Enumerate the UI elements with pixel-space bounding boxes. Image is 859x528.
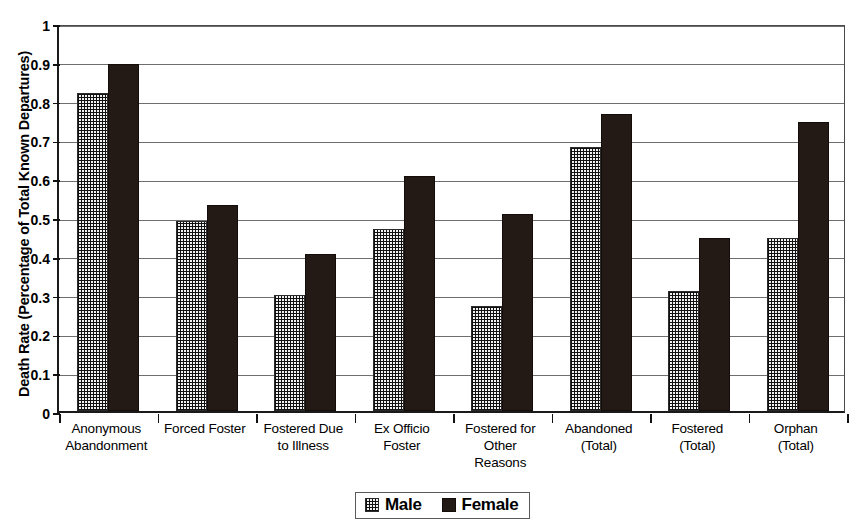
bar-female	[798, 122, 829, 411]
x-axis-label-line: Other	[484, 438, 517, 453]
y-axis-tick-label: 0.6	[31, 173, 50, 189]
legend-item-male: Male	[365, 495, 422, 515]
x-axis-label-line: (Total)	[679, 438, 715, 453]
male-swatch-icon	[365, 498, 379, 512]
x-axis-label-line: Fostered	[671, 421, 723, 436]
x-axis-label-line: Abandoned	[565, 421, 632, 436]
gridline	[59, 142, 844, 143]
x-axis-label-line: Foster	[383, 438, 420, 453]
x-axis-label-line: Orphan	[774, 421, 818, 436]
x-axis-label-line: Forced Foster	[164, 421, 245, 436]
y-axis-tick-label: 0.8	[31, 96, 50, 112]
x-axis-label-line: Fostered Due	[264, 421, 343, 436]
x-axis-category-labels: AnonymousAbandonmentForced FosterFostere…	[57, 420, 845, 488]
y-axis-tick-label: 0.1	[31, 367, 50, 383]
x-axis-label-line: Ex Officio	[374, 421, 430, 436]
plot-area: 00.10.20.30.40.50.60.70.80.91	[57, 25, 845, 413]
y-axis-tick	[53, 64, 60, 66]
bar-female	[502, 214, 533, 411]
gridline	[59, 103, 844, 104]
y-axis-tick	[53, 219, 60, 221]
legend: Male Female	[355, 492, 530, 519]
x-axis-label-line: Reasons	[474, 455, 526, 470]
y-axis-tick-label: 0.3	[31, 290, 50, 306]
bar-male	[767, 238, 798, 411]
bar-male	[274, 295, 305, 411]
gridline	[59, 181, 844, 182]
bar-female	[207, 205, 238, 411]
x-axis-label-line: to Illness	[278, 438, 329, 453]
x-axis-category-label: Fostered Dueto Illness	[254, 420, 353, 454]
x-axis-category-label: Abandoned(Total)	[550, 420, 649, 454]
legend-label-male: Male	[385, 495, 422, 515]
y-axis-tick-label: 0.2	[31, 328, 50, 344]
y-axis-tick	[53, 25, 60, 27]
legend-item-female: Female	[442, 495, 519, 515]
x-axis-category-label: Forced Foster	[156, 420, 255, 437]
bar-female	[699, 238, 730, 411]
x-axis-category-label: Fostered forOtherReasons	[451, 420, 550, 471]
x-axis-label-line: (Total)	[778, 438, 814, 453]
y-axis-tick	[53, 103, 60, 105]
x-axis-category-label: Ex OfficioFoster	[353, 420, 452, 454]
y-axis-tick-label: 0.4	[31, 251, 50, 267]
gridline	[59, 26, 844, 27]
y-axis-tick-label: 0	[42, 406, 50, 422]
bar-male	[668, 291, 699, 411]
bar-male	[570, 147, 601, 411]
bar-chart: Death Rate (Percentage of Total Known De…	[0, 0, 859, 528]
y-axis-tick	[53, 297, 60, 299]
bar-female	[108, 64, 139, 411]
y-axis-tick-label: 0.9	[31, 57, 50, 73]
y-axis-tick-label: 0.5	[31, 212, 50, 228]
x-axis-label-line: Fostered for	[465, 421, 535, 436]
bar-female	[404, 176, 435, 411]
legend-label-female: Female	[462, 495, 519, 515]
x-axis-label-line: Anonymous	[72, 421, 142, 436]
bar-male	[373, 229, 404, 411]
x-axis-label-line: Abandonment	[65, 438, 147, 453]
y-axis-tick	[53, 336, 60, 338]
y-axis-tick-label: 1	[42, 18, 50, 34]
x-axis-label-line: (Total)	[581, 438, 617, 453]
bar-female	[601, 114, 632, 411]
female-swatch-icon	[442, 498, 456, 512]
bar-male	[471, 306, 502, 411]
bar-female	[305, 254, 336, 411]
bar-male	[77, 93, 108, 411]
x-axis-tick	[847, 414, 849, 423]
x-axis-category-label: Orphan(Total)	[747, 420, 846, 454]
y-axis-tick	[53, 374, 60, 376]
bar-male	[176, 221, 207, 411]
y-axis-tick-label: 0.7	[31, 134, 50, 150]
x-axis-category-label: Fostered(Total)	[648, 420, 747, 454]
x-axis-category-label: AnonymousAbandonment	[57, 420, 156, 454]
y-axis-tick	[53, 180, 60, 182]
y-axis-tick	[53, 258, 60, 260]
y-axis-tick	[53, 142, 60, 144]
gridline	[59, 64, 844, 65]
